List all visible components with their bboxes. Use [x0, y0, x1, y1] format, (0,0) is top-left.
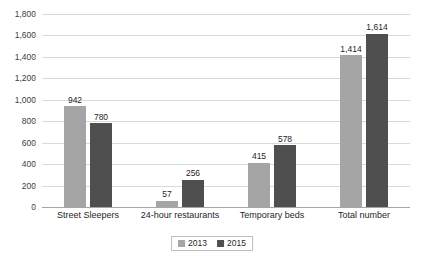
y-tick-label: 1,400 [0, 53, 36, 62]
y-tick-label: 0 [0, 203, 36, 212]
bar-value-label: 780 [94, 113, 108, 122]
y-tick-mark [32, 35, 36, 36]
legend-label: 2013 [188, 239, 207, 248]
bar-value-label: 415 [252, 152, 266, 161]
y-tick-mark [32, 57, 36, 58]
legend-label: 2015 [227, 239, 246, 248]
y-tick-mark [32, 164, 36, 165]
y-tick-label: 1,800 [0, 10, 36, 19]
bar-value-label: 942 [68, 96, 82, 105]
x-tick-label: Temporary beds [240, 210, 305, 221]
y-tick-label: 800 [0, 117, 36, 126]
x-tick-label: 24-hour restaurants [141, 210, 220, 221]
bar-2013-temporary-beds [248, 163, 270, 207]
chart-legend: 20132015 [171, 236, 253, 251]
bar-group: 942780 [64, 14, 112, 207]
y-tick-label: 1,200 [0, 74, 36, 83]
bar-2015-24-hour-restaurants [182, 180, 204, 207]
y-tick-label: 200 [0, 181, 36, 190]
bar-group: 57256 [156, 14, 204, 207]
bar-value-label: 578 [278, 135, 292, 144]
bar-2013-total-number [340, 55, 362, 207]
y-tick-mark [32, 100, 36, 101]
y-tick-mark [32, 121, 36, 122]
y-tick-mark [32, 186, 36, 187]
y-tick-mark [32, 143, 36, 144]
bar-2013-24-hour-restaurants [156, 201, 178, 207]
bar-2013-street-sleepers [64, 106, 86, 207]
axis-baseline [42, 207, 410, 208]
bar-chart: 02004006008001,0001,2001,4001,6001,800 9… [0, 0, 424, 258]
legend-swatch-icon [178, 240, 185, 247]
x-axis-category-labels: Street Sleepers24-hour restaurantsTempor… [42, 210, 410, 226]
bar-group: 415578 [248, 14, 296, 207]
legend-swatch-icon [217, 240, 224, 247]
bar-value-label: 256 [186, 169, 200, 178]
bar-value-label: 57 [162, 190, 171, 199]
y-tick-mark [32, 78, 36, 79]
x-tick-label: Street Sleepers [57, 210, 119, 221]
y-tick-label: 1,600 [0, 31, 36, 40]
bar-value-label: 1,414 [340, 45, 361, 54]
plot-area: 942780572564155781,4141,614 [42, 14, 410, 207]
legend-entry-2013[interactable]: 2013 [178, 239, 207, 248]
y-tick-mark [32, 207, 36, 208]
legend-entry-2015[interactable]: 2015 [217, 239, 246, 248]
y-tick-mark [32, 14, 36, 15]
x-tick-label: Total number [338, 210, 390, 221]
y-tick-label: 400 [0, 160, 36, 169]
bar-2015-total-number [366, 34, 388, 207]
bar-value-label: 1,614 [366, 23, 387, 32]
y-tick-label: 600 [0, 138, 36, 147]
bar-2015-street-sleepers [90, 123, 112, 207]
bar-2015-temporary-beds [274, 145, 296, 207]
bar-group: 1,4141,614 [340, 14, 388, 207]
y-axis: 02004006008001,0001,2001,4001,6001,800 [0, 14, 36, 207]
y-tick-label: 1,000 [0, 96, 36, 105]
